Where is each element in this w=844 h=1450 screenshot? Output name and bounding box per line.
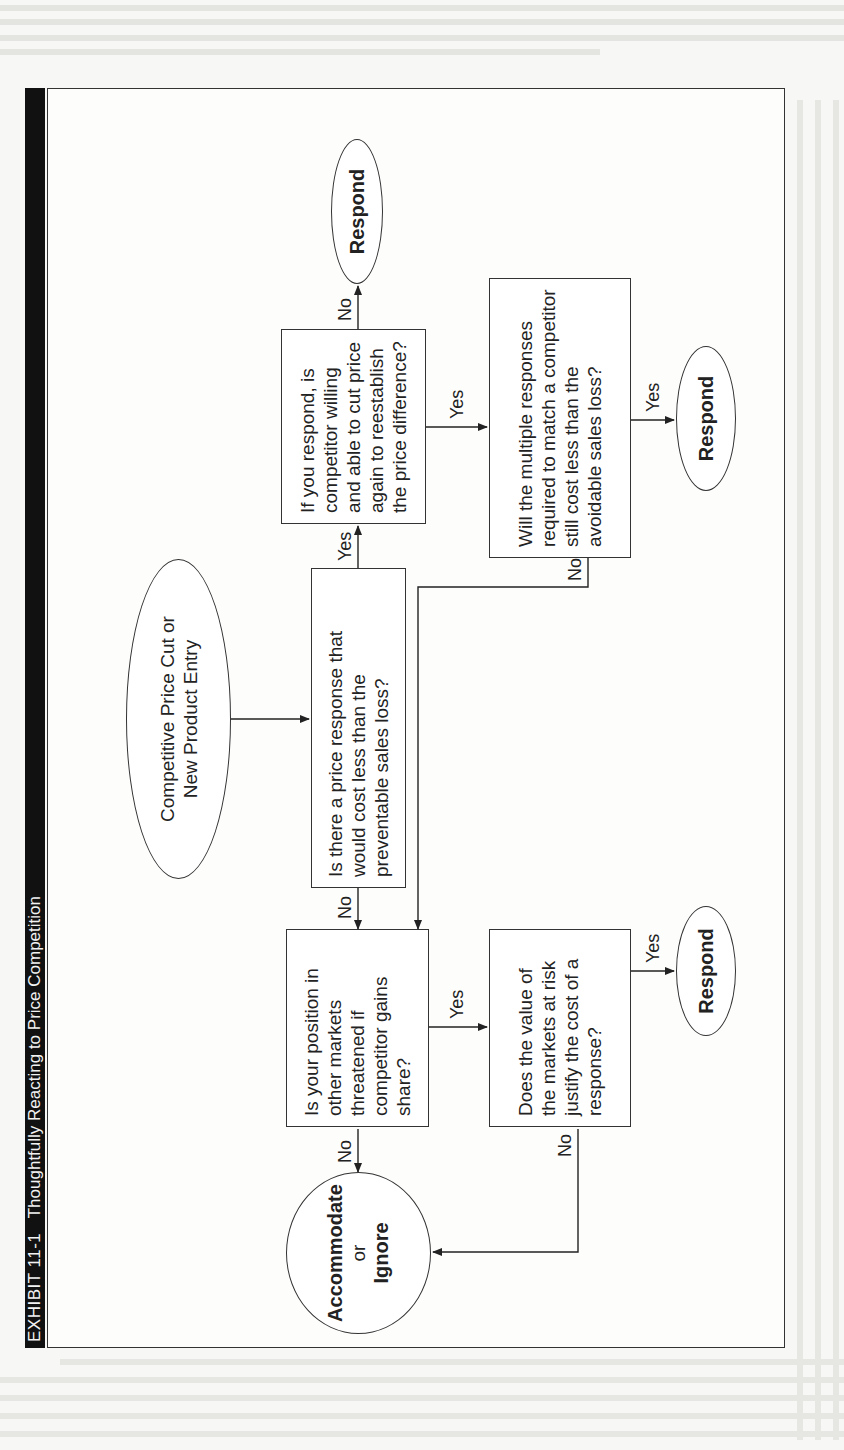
decision-box-position-threatened: Is your position in other markets threat…: [286, 929, 429, 1127]
exhibit-number: EXHIBIT 11-1: [25, 1233, 44, 1342]
rotated-exhibit: EXHIBIT 11-1 Thoughtfully Reacting to Pr…: [25, 88, 785, 1348]
respond-terminal-top: Respond: [331, 139, 383, 284]
decision-box-competitor-willing: If you respond, is competitor willing an…: [281, 329, 426, 524]
exhibit-title-bar: EXHIBIT 11-1 Thoughtfully Reacting to Pr…: [25, 88, 45, 1348]
respond-terminal-top-label: Respond: [346, 169, 369, 255]
edge-label-q4-no: No: [336, 1140, 354, 1163]
edge-label-q5-yes: Yes: [644, 934, 662, 963]
accommodate-label: Accommodate: [324, 1184, 347, 1322]
decision-box-price-response: Is there a price response that would cos…: [311, 568, 406, 888]
edge-label-q5-no: No: [556, 1134, 574, 1157]
respond-terminal-middle: Respond: [676, 346, 736, 491]
decision-box-multiple-responses: Will the multiple responses required to …: [489, 278, 631, 558]
edge-label-q2-no: No: [336, 298, 354, 321]
accommodate-or-ignore-terminal: Accommodate or Ignore: [286, 1172, 431, 1334]
edge-label-q3-no: No: [566, 558, 584, 581]
edge-label-q1-no: No: [336, 896, 354, 919]
respond-terminal-bottom: Respond: [676, 906, 736, 1036]
exhibit-title: Thoughtfully Reacting to Price Competiti…: [25, 896, 44, 1218]
decision-box-value-at-risk: Does the value of the markets at risk ju…: [489, 929, 631, 1127]
respond-terminal-middle-label: Respond: [695, 376, 718, 462]
respond-terminal-bottom-label: Respond: [695, 928, 718, 1014]
edge-label-q2-yes: Yes: [448, 390, 466, 419]
ignore-label: Ignore: [370, 1222, 393, 1283]
or-label: or: [347, 1245, 370, 1262]
edge-label-q4-yes: Yes: [448, 990, 466, 1019]
decision-box-value-at-risk-text: Does the value of the markets at risk ju…: [514, 940, 606, 1116]
start-node-label: Competitive Price Cut or New Product Ent…: [156, 604, 202, 834]
start-node-competitive-price-cut: Competitive Price Cut or New Product Ent…: [126, 559, 231, 879]
edge-label-q1-yes: Yes: [336, 532, 354, 561]
flowchart-frame: Competitive Price Cut or New Product Ent…: [47, 88, 785, 1348]
decision-box-multiple-responses-text: Will the multiple responses required to …: [514, 289, 606, 547]
decision-box-competitor-willing-text: If you respond, is competitor willing an…: [296, 340, 411, 513]
edge-label-q3-yes: Yes: [644, 383, 662, 412]
decision-box-position-threatened-text: Is your position in other markets threat…: [300, 940, 415, 1116]
decision-box-price-response-text: Is there a price response that would cos…: [324, 579, 393, 877]
